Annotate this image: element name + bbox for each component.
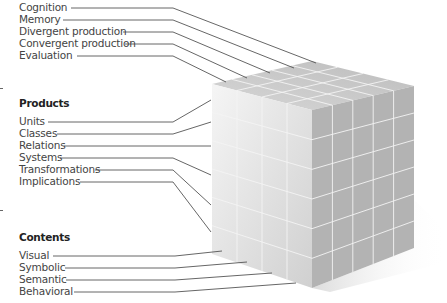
content-leader-line [53, 251, 222, 256]
product-label-transformations: Transformations [19, 163, 100, 175]
product-leader-line [48, 100, 211, 122]
operation-leader-line [123, 32, 270, 73]
operation-label-cognition: Cognition [19, 1, 67, 13]
product-label-implications: Implications [19, 175, 80, 187]
content-label-symbolic: Symbolic [19, 261, 65, 273]
product-label-systems: Systems [19, 151, 62, 163]
structure-of-intellect-diagram: Cognition Memory Divergent production Co… [0, 0, 447, 303]
product-label-classes: Classes [19, 127, 57, 139]
content-leader-line [65, 262, 247, 268]
product-label-relations: Relations [19, 139, 65, 151]
product-leader-line [80, 182, 211, 232]
product-label-units: Units [19, 115, 45, 127]
contents-heading: Contents [19, 231, 70, 243]
content-label-semantic: Semantic [19, 273, 67, 285]
product-leader-line [95, 170, 211, 205]
operation-label-divergent: Divergent production [19, 25, 126, 37]
operation-leader-line [125, 44, 247, 78]
content-label-behavioral: Behavioral [19, 285, 73, 297]
content-leader-line [66, 273, 272, 280]
operation-leader-line [77, 56, 226, 82]
product-leader-line [57, 122, 211, 134]
products-heading: Products [19, 97, 69, 109]
content-label-visual: Visual [19, 249, 49, 261]
content-leader-line [74, 283, 296, 292]
operation-label-convergent: Convergent production [19, 37, 136, 49]
edge-mark [0, 210, 3, 211]
operation-label-memory: Memory [19, 13, 61, 25]
operation-label-evaluation: Evaluation [19, 49, 72, 61]
edge-mark [0, 88, 3, 89]
